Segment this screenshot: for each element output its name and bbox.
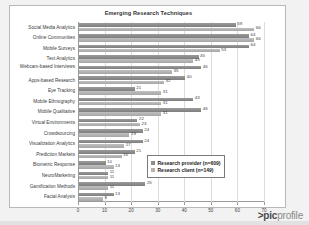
x-tick-label: 10 <box>102 208 107 213</box>
value-label-provider: 46 <box>203 107 208 111</box>
tick-mark <box>105 202 106 205</box>
category-label: Online Communities <box>33 35 75 40</box>
value-label-client: 35 <box>174 69 179 73</box>
x-tick-label: 60 <box>235 208 240 213</box>
bar-provider <box>79 87 135 91</box>
chart-row: Webcam-based Interviews4635 <box>78 64 264 75</box>
value-label-provider: 64 <box>251 43 256 47</box>
bar-provider <box>79 98 193 102</box>
legend-label-client: Research client (n=149) <box>158 167 214 173</box>
bar-provider <box>79 172 108 176</box>
chart-legend: Research provider (n=609) Research clien… <box>147 155 225 178</box>
bar-client <box>79 133 129 137</box>
bar-provider <box>79 34 249 38</box>
bar-provider <box>79 140 143 144</box>
category-label: Prediction Markets <box>36 152 75 157</box>
bar-provider <box>79 193 114 197</box>
chart-row: Mobile Qualitative4631 <box>78 107 264 118</box>
watermark-prefix: >pic <box>258 210 278 221</box>
value-label-client: 9 <box>104 196 106 200</box>
bar-client <box>79 112 161 116</box>
chart-row: Eye Tracking2131 <box>78 86 264 97</box>
value-label-client: 19 <box>131 132 136 136</box>
value-label-client: 16 <box>123 153 128 157</box>
legend-label-provider: Research provider (n=609) <box>158 160 221 166</box>
chart-row: Social Media Analytics5966 <box>78 22 264 33</box>
bar-client <box>79 123 140 127</box>
value-label-client: 11 <box>110 175 115 179</box>
bar-provider <box>79 108 201 112</box>
category-label: Biometric Response <box>33 162 75 167</box>
x-tick-label: 20 <box>129 208 134 213</box>
category-label: Mobile Qualitative <box>38 109 75 114</box>
chart-row: Visualization Analytics2417 <box>78 138 264 149</box>
legend-swatch-icon-client <box>151 168 155 172</box>
category-label: NeuroMarketing <box>42 173 75 178</box>
bar-provider <box>79 23 236 27</box>
tick-mark <box>211 202 212 205</box>
tick-mark <box>78 202 79 205</box>
bar-client <box>79 155 122 159</box>
chart-row: Crowdsourcing2419 <box>78 128 264 139</box>
value-label-client: 31 <box>163 111 168 115</box>
value-label-provider: 43 <box>195 96 200 100</box>
bar-client <box>79 102 161 106</box>
bar-client <box>79 186 108 190</box>
legend-item-provider: Research provider (n=609) <box>151 160 220 166</box>
x-tick-label: 50 <box>208 208 213 213</box>
bar-client <box>79 49 220 53</box>
bar-provider <box>79 161 106 165</box>
chart-title: Emerging Research Techniques <box>10 10 287 16</box>
watermark-logo: >picprofile <box>258 210 303 221</box>
value-label-provider: 25 <box>147 181 152 185</box>
chart-row: Virtual Environments2223 <box>78 117 264 128</box>
bar-client <box>79 165 114 169</box>
tick-mark <box>184 202 185 205</box>
category-label: Gamification Methods <box>30 184 75 189</box>
bar-provider <box>79 119 137 123</box>
chart-row: Facial Analysis139 <box>78 191 264 202</box>
bar-client <box>79 81 164 85</box>
chart-row: Text Analytics4543 <box>78 54 264 65</box>
gridline <box>264 22 265 202</box>
value-label-provider: 21 <box>136 86 141 90</box>
bar-client <box>79 176 108 180</box>
x-tick-label: 0 <box>77 208 80 213</box>
x-tick-label: 40 <box>182 208 187 213</box>
footer-band <box>0 221 309 225</box>
value-label-client: 31 <box>163 101 168 105</box>
value-label-provider: 13 <box>115 192 120 196</box>
category-label: Virtual Environments <box>32 120 75 125</box>
value-label-provider: 40 <box>187 75 192 79</box>
value-label-client: 13 <box>115 164 120 168</box>
bar-client <box>79 91 161 95</box>
bar-client <box>79 70 172 74</box>
chart-card: Emerging Research Techniques Social Medi… <box>9 5 286 208</box>
legend-item-client: Research client (n=149) <box>151 167 220 173</box>
tick-mark <box>158 202 159 205</box>
value-label-provider: 45 <box>200 54 205 58</box>
category-label: Webcam-based Interviews <box>13 64 75 69</box>
category-label: Visualization Analytics <box>29 141 75 146</box>
value-label-provider: 21 <box>136 149 141 153</box>
category-label: Text Analytics <box>47 56 75 61</box>
chart-row: Gamification Methods2511 <box>78 181 264 192</box>
value-label-provider: 64 <box>251 33 256 37</box>
category-label: Crowdsourcing <box>44 131 75 136</box>
value-label-provider: 24 <box>144 128 149 132</box>
chart-row: Apps-based Research4032 <box>78 75 264 86</box>
value-label-provider: 24 <box>144 139 149 143</box>
value-label-client: 32 <box>166 79 171 83</box>
bar-client <box>79 197 103 201</box>
bar-client <box>79 59 193 63</box>
value-label-client: 53 <box>221 48 226 52</box>
tick-mark <box>131 202 132 205</box>
category-label: Mobile Ethnography <box>33 99 75 104</box>
value-label-client: 23 <box>142 122 147 126</box>
category-label: Social Media Analytics <box>28 25 75 30</box>
watermark-suffix: profile <box>277 210 303 221</box>
value-label-client: 43 <box>195 58 200 62</box>
tick-mark <box>237 202 238 205</box>
chart-row: Online Communities6466 <box>78 33 264 44</box>
value-label-client: 66 <box>256 37 261 41</box>
